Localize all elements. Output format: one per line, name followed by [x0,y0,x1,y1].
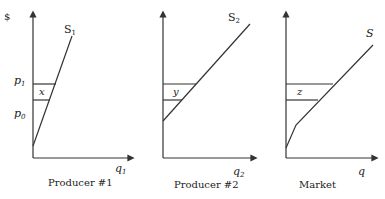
area-x-label: x [39,87,45,97]
y-axis-dollar-label: $ [4,12,10,22]
area-y-label: y [173,87,179,97]
s1-label: S1 [64,24,76,37]
q2-axis-label: q2 [233,166,245,179]
s2-curve [163,24,250,121]
caption-market: Market [299,180,336,190]
caption-producer-1: Producer #1 [48,178,113,188]
s2-label: S2 [228,12,240,25]
q-axis-label: q [358,166,365,177]
price-label-p1: p1 [14,75,26,88]
price-label-p0: p0 [14,108,26,121]
supply-diagram: $ p1 p0 S1 x q1 Producer #1 S2 y q2 Prod… [0,0,385,199]
diagram-graphics [0,0,385,199]
q1-axis-label: q1 [115,163,127,176]
caption-producer-2: Producer #2 [174,180,239,190]
market-s-label: S [366,28,374,39]
area-z-label: z [297,87,302,97]
